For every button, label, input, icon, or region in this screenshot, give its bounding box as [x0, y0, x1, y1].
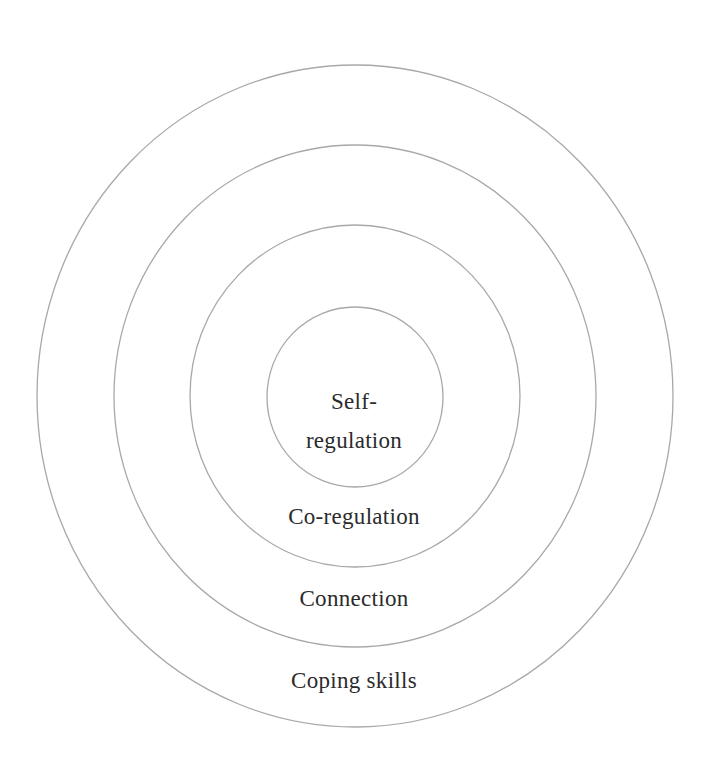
label-self-regulation: Self- regulation	[0, 382, 708, 460]
concentric-circles-diagram: Self- regulation Co-regulation Connectio…	[0, 0, 708, 774]
label-coping-skills: Coping skills	[0, 666, 708, 696]
label-co-regulation: Co-regulation	[0, 502, 708, 532]
label-connection: Connection	[0, 584, 708, 614]
label-self-regulation-line2: regulation	[0, 421, 708, 460]
label-self-regulation-line1: Self-	[0, 382, 708, 421]
